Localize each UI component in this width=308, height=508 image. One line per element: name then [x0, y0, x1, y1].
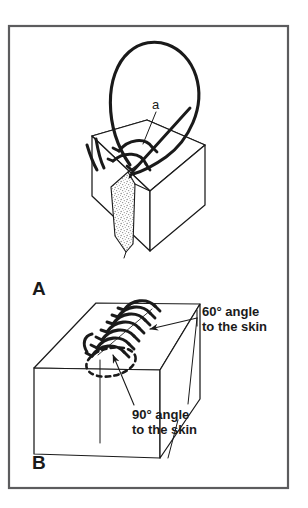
panel-b-letter: B — [32, 452, 46, 473]
callout-point-a-label: a — [152, 97, 160, 112]
panel-a-letter: A — [32, 278, 46, 299]
callout-90-degree-line1: 90° angle — [132, 407, 189, 422]
callout-90-degree-line2: to the skin — [132, 422, 197, 437]
callout-60-degree-line1: 60° angle — [202, 304, 259, 319]
figure-container: a A — [0, 0, 308, 508]
panel-b: 60° angle to the skin 90° angle to the s… — [32, 301, 267, 473]
panel-a: a A — [32, 42, 206, 299]
suture-angle-figure: a A — [0, 0, 308, 508]
callout-60-degree-line2: to the skin — [202, 319, 267, 334]
panel-a-skin-block — [92, 120, 206, 251]
